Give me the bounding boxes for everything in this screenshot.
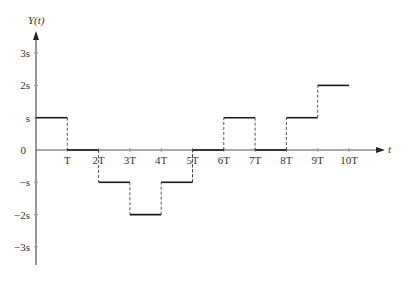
x-tick-label: 5T bbox=[186, 154, 199, 166]
step-function-chart: Y(t)tT2T3T4T5T6T7T8T9T10T03s2ss−s−2s−3s bbox=[0, 0, 404, 283]
y-tick-label: −s bbox=[20, 176, 30, 188]
x-tick-label: T bbox=[64, 154, 71, 166]
x-axis-title: t bbox=[388, 143, 392, 155]
y-axis-title: Y(t) bbox=[28, 14, 45, 27]
x-tick-label: 6T bbox=[218, 154, 231, 166]
x-tick-label: 3T bbox=[124, 154, 137, 166]
tick-labels: Y(t)tT2T3T4T5T6T7T8T9T10T03s2ss−s−2s−3s bbox=[14, 14, 392, 253]
y-tick-label-zero: 0 bbox=[21, 144, 27, 156]
y-tick-label: 2s bbox=[20, 79, 30, 91]
x-tick-label: 4T bbox=[155, 154, 168, 166]
y-tick-label: −2s bbox=[14, 209, 30, 221]
x-tick-label: 9T bbox=[312, 154, 325, 166]
axes bbox=[33, 31, 385, 265]
y-tick-label: 3s bbox=[20, 47, 30, 59]
y-tick-label: s bbox=[26, 112, 30, 124]
x-tick-label: 10T bbox=[340, 154, 358, 166]
y-tick-label: −3s bbox=[14, 241, 30, 253]
x-tick-label: 2T bbox=[92, 154, 105, 166]
y-axis-arrow-icon bbox=[33, 31, 39, 40]
x-tick-label: 8T bbox=[280, 154, 293, 166]
x-axis-arrow-icon bbox=[376, 147, 385, 153]
x-tick-label: 7T bbox=[249, 154, 262, 166]
